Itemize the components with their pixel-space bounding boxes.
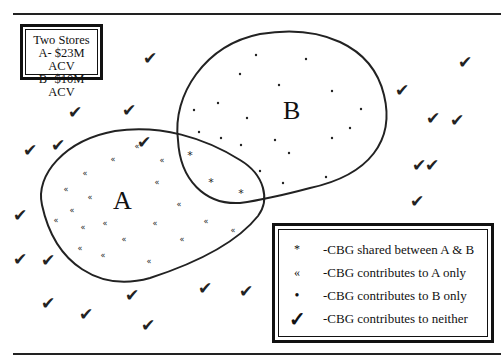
b-only-cbg-marker: [198, 131, 200, 133]
b-only-cbg-marker: [259, 170, 261, 172]
b-only-cbg-marker: [288, 152, 290, 154]
neither-cbg-checkmark: ✔: [239, 281, 253, 301]
a-only-cbg-marker: «: [204, 217, 209, 226]
neither-cbg-checkmark: ✔: [68, 102, 82, 122]
trade-area-a-outline: [41, 129, 264, 281]
legend-item-shared: * -CBG shared between A & B: [279, 238, 487, 261]
b-only-cbg-marker: [246, 117, 248, 119]
dot-icon: •: [279, 288, 315, 304]
neither-cbg-checkmark: ✔: [122, 100, 136, 120]
a-only-cbg-marker: «: [231, 226, 236, 235]
b-only-cbg-marker: [360, 108, 362, 110]
shared-cbg-marker: *: [208, 176, 214, 189]
neither-cbg-checkmark: ✔: [13, 249, 27, 269]
neither-cbg-checkmark: ✔: [51, 135, 65, 155]
a-only-cbg-marker: «: [81, 223, 86, 232]
neither-cbg-checkmark: ✔: [23, 140, 37, 160]
b-only-cbg-marker: [193, 109, 195, 111]
a-only-cbg-marker: «: [70, 206, 75, 215]
shared-cbg-marker: *: [187, 149, 193, 162]
b-only-cbg-marker: [349, 127, 351, 129]
neither-cbg-checkmark: ✔: [425, 155, 439, 175]
a-only-cbg-marker: «: [155, 178, 160, 187]
shared-cbg-marker: *: [238, 187, 244, 200]
neither-cbg-checkmark: ✔: [410, 191, 424, 211]
a-only-cbg-marker: «: [122, 235, 127, 244]
a-only-cbg-marker: «: [78, 244, 83, 253]
neither-cbg-checkmark: ✔: [141, 315, 155, 335]
b-only-cbg-marker: [282, 182, 284, 184]
a-only-cbg-marker: «: [160, 156, 165, 165]
legend-item-a-only: « -CBG contributes to A only: [279, 261, 487, 284]
a-only-cbg-marker: «: [83, 169, 88, 178]
a-only-cbg-marker: «: [153, 219, 158, 228]
a-only-cbg-marker: «: [147, 257, 152, 266]
b-only-cbg-marker: [240, 144, 242, 146]
title-line-3: B- $10M ACV: [26, 73, 97, 99]
legend-box: * -CBG shared between A & B « -CBG contr…: [272, 223, 494, 343]
star-icon: *: [279, 242, 315, 257]
title-line-2: A- $23M ACV: [26, 47, 97, 73]
neither-cbg-checkmark: ✔: [198, 278, 212, 298]
neither-cbg-checkmark: ✔: [79, 304, 93, 324]
neither-cbg-checkmark: ✔: [13, 205, 27, 225]
title-box: Two Stores A- $23M ACV B- $10M ACV: [20, 24, 103, 80]
neither-cbg-checkmark: ✔: [426, 108, 440, 128]
b-only-cbg-marker: [331, 137, 333, 139]
neither-cbg-checkmark: ✔: [143, 48, 157, 68]
neither-cbg-checkmark: ✔: [450, 110, 464, 130]
a-only-cbg-marker: «: [88, 193, 93, 202]
neither-cbg-checkmark: ✔: [395, 80, 409, 100]
b-only-cbg-marker: [255, 54, 257, 56]
a-only-cbg-marker: «: [103, 219, 108, 228]
a-only-cbg-marker: «: [54, 216, 59, 225]
neither-cbg-checkmark: ✔: [137, 132, 151, 152]
b-only-cbg-marker: [331, 90, 333, 92]
a-only-cbg-marker: «: [111, 155, 116, 164]
region-b-label: B: [283, 96, 300, 126]
region-a-label: A: [113, 186, 132, 216]
b-only-cbg-marker: [305, 58, 307, 60]
legend-item-b-only: • -CBG contributes to B only: [279, 284, 487, 307]
a-only-cbg-marker: «: [177, 200, 182, 209]
b-only-cbg-marker: [239, 73, 241, 75]
neither-cbg-checkmark: ✔: [458, 52, 472, 72]
b-only-cbg-marker: [274, 139, 276, 141]
neither-cbg-checkmark: ✔: [125, 285, 139, 305]
guillemet-icon: «: [279, 265, 315, 280]
a-only-cbg-marker: «: [64, 185, 69, 194]
legend-item-neither: ✓ -CBG contributes to neither: [279, 307, 487, 330]
neither-cbg-checkmark: ✔: [41, 250, 55, 270]
neither-cbg-checkmark: ✔: [412, 155, 426, 175]
a-only-cbg-marker: «: [101, 251, 106, 260]
checkmark-icon: ✓: [279, 307, 315, 331]
b-only-cbg-marker: [325, 176, 327, 178]
b-only-cbg-marker: [217, 102, 219, 104]
b-only-cbg-marker: [220, 137, 222, 139]
b-only-cbg-marker: [278, 84, 280, 86]
a-only-cbg-marker: «: [180, 235, 185, 244]
neither-cbg-checkmark: ✔: [41, 293, 55, 313]
